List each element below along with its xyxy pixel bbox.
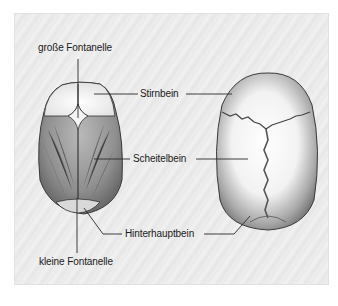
label-stirnbein: Stirnbein xyxy=(140,88,179,100)
label-kleine-fontanelle: kleine Fontanelle xyxy=(39,256,113,268)
label-hinterhauptbein: Hinterhauptbein xyxy=(125,228,194,240)
label-grosse-fontanelle: große Fontanelle xyxy=(38,42,112,54)
infant-skull xyxy=(39,82,123,214)
adult-skull xyxy=(216,73,317,230)
label-scheitelbein: Scheitelbein xyxy=(133,153,186,165)
